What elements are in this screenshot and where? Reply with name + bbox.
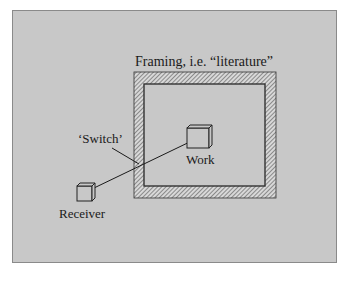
work-label: Work bbox=[186, 153, 215, 166]
receiver-label: Receiver bbox=[59, 207, 105, 220]
framing-label: Framing, i.e. “literature” bbox=[135, 55, 273, 69]
switch-label: ‘Switch’ bbox=[78, 132, 123, 145]
receiver-cube-icon bbox=[77, 183, 95, 201]
diagram-canvas bbox=[0, 0, 347, 281]
work-cube-icon bbox=[187, 125, 212, 148]
